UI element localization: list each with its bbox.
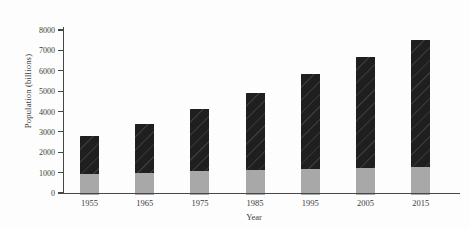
y-axis-line [63,27,64,193]
bar-segment-black [190,109,209,170]
bar-1995 [301,74,320,195]
x-tick-label: 1955 [68,198,112,208]
bar-segment-black [135,124,154,173]
y-tick-label: 0 [51,189,55,198]
x-tick-label: 2005 [344,198,388,208]
y-tick-label: 6000 [39,66,55,75]
bar-segment-gray [246,170,265,195]
bar-1985 [246,93,265,195]
bar-2005 [356,57,375,196]
bar-segment-black [301,74,320,169]
bar-1955 [80,136,99,195]
y-tick-label: 5000 [39,87,55,96]
x-tick-label: 1975 [178,198,222,208]
bar-2015 [411,40,430,195]
bar-segment-black [80,136,99,174]
bar-segment-gray [190,171,209,195]
bar-segment-black [411,40,430,166]
bar-segment-gray [356,168,375,195]
y-tick-label: 1000 [39,168,55,177]
x-tick-label: 1965 [123,198,167,208]
bar-segment-gray [411,167,430,195]
y-tick-label: 2000 [39,148,55,157]
bar-segment-black [246,93,265,169]
y-tick-label: 8000 [39,26,55,35]
x-axis-line [63,193,460,194]
y-tick-label: 3000 [39,127,55,136]
population-bar-chart: Population (billions) 010002000300040005… [0,0,469,229]
bar-1965 [135,124,154,195]
y-axis-title: Population (billions) [23,54,33,128]
x-tick-label: 2015 [399,198,443,208]
plot-area: 010002000300040005000600070008000 195519… [63,30,460,193]
bar-1975 [190,109,209,195]
x-tick-label: 1985 [233,198,277,208]
bar-segment-gray [301,169,320,195]
bar-segment-black [356,57,375,168]
y-tick-label: 7000 [39,46,55,55]
y-tick-label: 4000 [39,107,55,116]
x-tick-label: 1995 [288,198,332,208]
x-axis-title: Year [246,212,262,222]
